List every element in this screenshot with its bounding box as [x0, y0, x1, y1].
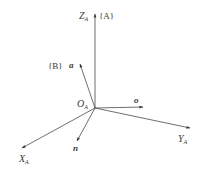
frame-a-label: {A}: [99, 11, 114, 21]
frame-diagram: ZA {A} {B} a OA o YA n XA: [0, 0, 200, 173]
y-axis: [95, 108, 190, 128]
x-axis-label: XA: [18, 153, 29, 165]
origin-label: OA: [77, 98, 88, 110]
o-vector-label: o: [134, 95, 139, 105]
o-vector: [95, 107, 143, 108]
frame-b-label: {B}: [48, 61, 63, 71]
n-vector-label: n: [73, 143, 78, 153]
a-vector-label: a: [69, 60, 74, 70]
y-axis-label: YA: [178, 133, 188, 145]
z-axis-label: ZA: [79, 10, 89, 22]
